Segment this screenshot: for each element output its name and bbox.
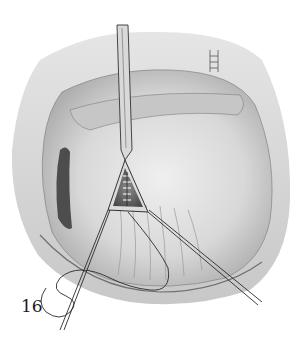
surgical-illustration — [0, 0, 302, 342]
figure-number: 16 — [21, 296, 43, 316]
inner-cavity — [40, 70, 272, 292]
